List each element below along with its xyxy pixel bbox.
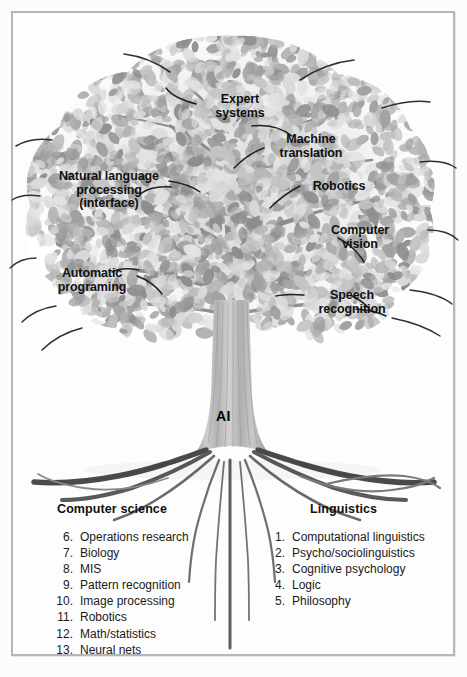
list-item: 12.Math/statistics [52, 626, 189, 642]
list-item-label: Image processing [80, 593, 175, 609]
canopy-label-robotics: Robotics [306, 180, 372, 194]
list-item: 7.Biology [52, 545, 189, 561]
list-item-label: Philosophy [292, 593, 351, 609]
list-item-label: Robotics [80, 609, 127, 625]
list-item-label: Cognitive psychology [292, 561, 405, 577]
list-item-label: Neural nets [80, 642, 141, 658]
canopy-label-automatic-programing: Automatic programing [48, 267, 136, 294]
list-item-label: Math/statistics [80, 626, 156, 642]
list-item: 8.MIS [52, 561, 189, 577]
canopy-label-machine-translation: Machine translation [262, 133, 360, 160]
canopy-label-computer-vision: Computer vision [322, 224, 398, 251]
column-heading-linguistics: Linguistics [310, 502, 377, 516]
list-item: 11.Robotics [52, 609, 189, 625]
list-item: 10.Image processing [52, 593, 189, 609]
column-list-computer-science: 6.Operations research7.Biology8.MIS9.Pat… [52, 529, 189, 658]
list-item-number: 1. [264, 529, 292, 545]
column-heading-computer-science: Computer science [57, 502, 167, 516]
list-item: 6.Operations research [52, 529, 189, 545]
list-item-number: 7. [52, 545, 80, 561]
list-item-number: 12. [52, 626, 80, 642]
canopy-label-expert-systems: Expert systems [196, 93, 284, 120]
list-item: 2.Psycho/sociolinguistics [264, 545, 425, 561]
list-item-label: Psycho/sociolinguistics [292, 545, 415, 561]
list-item-label: Logic [292, 577, 321, 593]
list-item-label: Pattern recognition [80, 577, 181, 593]
list-item-number: 9. [52, 577, 80, 593]
list-item: 5.Philosophy [264, 593, 425, 609]
list-item-number: 13. [52, 642, 80, 658]
column-list-linguistics: 1.Computational linguistics2.Psycho/soci… [264, 529, 425, 609]
canopy-label-speech-recognition: Speech recognition [310, 289, 394, 316]
trunk-label-ai: AI [216, 408, 231, 424]
list-item: 13.Neural nets [52, 642, 189, 658]
list-item-number: 6. [52, 529, 80, 545]
list-item-number: 11. [52, 609, 80, 625]
list-item: 4.Logic [264, 577, 425, 593]
list-item: 1.Computational linguistics [264, 529, 425, 545]
canopy-label-natural-language: Natural language processing (interface) [50, 170, 168, 211]
list-item-number: 4. [264, 577, 292, 593]
list-item-number: 10. [52, 593, 80, 609]
list-item-number: 3. [264, 561, 292, 577]
list-item: 9.Pattern recognition [52, 577, 189, 593]
list-item: 3.Cognitive psychology [264, 561, 425, 577]
list-item-label: Operations research [80, 529, 189, 545]
list-item-number: 5. [264, 593, 292, 609]
list-item-label: Biology [80, 545, 119, 561]
list-item-number: 2. [264, 545, 292, 561]
list-item-label: MIS [80, 561, 101, 577]
list-item-label: Computational linguistics [292, 529, 425, 545]
ai-tree-figure: Expert systemsMachine translationNatural… [0, 0, 467, 677]
list-item-number: 8. [52, 561, 80, 577]
